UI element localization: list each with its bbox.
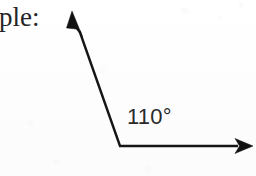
- figure-caption: ple:: [0, 2, 40, 32]
- upper-ray-arrowhead-icon: [67, 11, 83, 37]
- angle-measure-label: 110°: [127, 104, 172, 130]
- upper-ray-line: [80, 31, 121, 146]
- figure-page: ple: 110°: [0, 0, 256, 176]
